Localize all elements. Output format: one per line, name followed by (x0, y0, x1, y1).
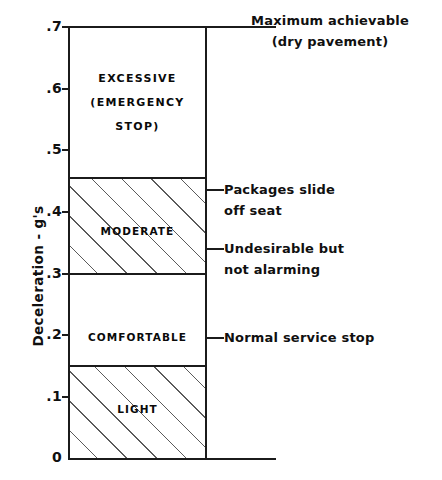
callout-undesirable-line2: not alarming (224, 259, 344, 280)
y-tick-label-0.1: .1 (32, 388, 62, 404)
y-tick-label-0.7: .7 (32, 18, 62, 34)
y-tick-label-0.6: .6 (32, 80, 62, 96)
deceleration-band-chart: Deceleration - g's .7 .6 .5 .4 .3 .2 .1 … (0, 0, 442, 480)
callout-maximum-achievable-line2: (dry pavement) (224, 31, 436, 52)
callout-normal-service-stop-line1: Normal service stop (224, 327, 374, 348)
callout-maximum-achievable: Maximum achievable (dry pavement) (224, 10, 436, 52)
y-tick-label-0.5: .5 (32, 141, 62, 157)
band-excessive-label-line1: EXCESSIVE (68, 67, 207, 91)
band-moderate: MODERATE (68, 177, 207, 273)
y-tick-label-0.3: .3 (32, 265, 62, 281)
band-moderate-label: MODERATE (68, 225, 207, 237)
leader-line-normal-service-stop (207, 337, 224, 339)
band-comfortable-label: COMFORTABLE (68, 331, 207, 343)
callout-packages-slide-line1: Packages slide (224, 179, 335, 200)
leader-line-undesirable (207, 248, 224, 250)
callout-packages-slide-line2: off seat (224, 200, 335, 221)
band-comfortable: COMFORTABLE (68, 273, 207, 365)
band-moderate-upper-rule (68, 177, 207, 179)
callout-undesirable: Undesirable but not alarming (224, 238, 344, 280)
callout-packages-slide: Packages slide off seat (224, 179, 335, 221)
band-excessive-label-line3: STOP) (68, 115, 207, 139)
y-tick-label-0.2: .2 (32, 326, 62, 342)
callout-normal-service-stop: Normal service stop (224, 327, 374, 348)
callout-undesirable-line1: Undesirable but (224, 238, 344, 259)
band-column-right-edge (205, 26, 207, 460)
band-excessive: EXCESSIVE (EMERGENCY STOP) (68, 26, 207, 177)
band-comfortable-upper-rule (68, 273, 207, 275)
band-excessive-label-line2: (EMERGENCY (68, 91, 207, 115)
leader-line-packages-slide (207, 189, 224, 191)
callout-maximum-achievable-line1: Maximum achievable (224, 10, 436, 31)
band-light-upper-rule (68, 365, 207, 367)
y-tick-label-0: 0 (32, 449, 62, 465)
band-light: LIGHT (68, 365, 207, 458)
x-axis-line (68, 458, 276, 460)
y-axis-line (68, 26, 70, 460)
y-tick-label-0.4: .4 (32, 203, 62, 219)
band-light-label: LIGHT (68, 403, 207, 415)
